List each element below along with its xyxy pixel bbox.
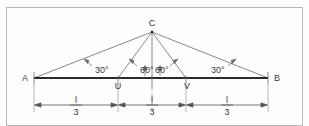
dim-left-numerator: l [75, 95, 77, 105]
point-label-u: U [115, 81, 122, 91]
dim-middle-arrow-start [119, 103, 126, 107]
geometry-figure: A U V B C 30° 60° 60° 30° l 3 l 3 l 3 [0, 0, 309, 126]
angle-label-a: 30° [95, 65, 109, 75]
diagram-canvas: A U V B C 30° 60° 60° 30° l 3 l 3 l 3 [0, 0, 309, 126]
member-c-a [34, 32, 152, 78]
dim-right-numerator: l [226, 95, 228, 105]
angle-label-c-right: 60° [155, 65, 169, 75]
point-label-c: C [149, 18, 156, 28]
angle-label-b: 30° [211, 65, 225, 75]
dim-middle-arrow-end [179, 103, 186, 107]
dim-left-arrow-start [35, 103, 42, 107]
point-label-v: V [184, 81, 190, 91]
dim-left-denominator: 3 [73, 107, 78, 117]
dim-right-denominator: 3 [224, 107, 229, 117]
apex-node-dot [151, 31, 154, 34]
point-label-a: A [22, 73, 28, 83]
dim-middle-denominator: 3 [149, 107, 154, 117]
dim-left-arrow-end [111, 103, 118, 107]
dim-middle-numerator: l [151, 95, 153, 105]
point-label-b: B [274, 73, 280, 83]
angle-label-c-left: 60° [140, 65, 154, 75]
dim-right-arrow-end [261, 103, 268, 107]
dim-right-arrow-start [187, 103, 194, 107]
